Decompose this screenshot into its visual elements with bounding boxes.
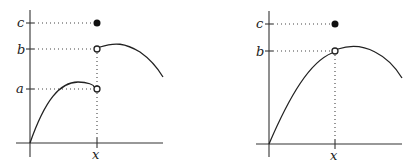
right-label-c: c	[256, 16, 264, 31]
right-curve-right	[338, 46, 402, 78]
right-curve-left	[269, 53, 332, 144]
right-point-c-filled	[332, 21, 339, 28]
left-label-x: x	[92, 147, 100, 162]
left-point-a-open	[94, 86, 100, 92]
right-label-b: b	[256, 44, 264, 59]
right-label-x: x	[330, 148, 338, 163]
left-label-b: b	[17, 42, 25, 57]
left-label-c: c	[17, 15, 25, 30]
diagram-canvas: c b a x c b x	[0, 0, 413, 168]
left-point-b-open	[94, 46, 100, 52]
right-point-b-open	[332, 48, 338, 54]
left-point-c-filled	[94, 20, 101, 27]
left-curve-lower	[30, 82, 94, 143]
right-panel: c b x	[256, 11, 402, 163]
left-label-a: a	[16, 81, 24, 96]
left-panel: c b a x	[16, 10, 163, 162]
left-curve-upper	[100, 44, 163, 77]
